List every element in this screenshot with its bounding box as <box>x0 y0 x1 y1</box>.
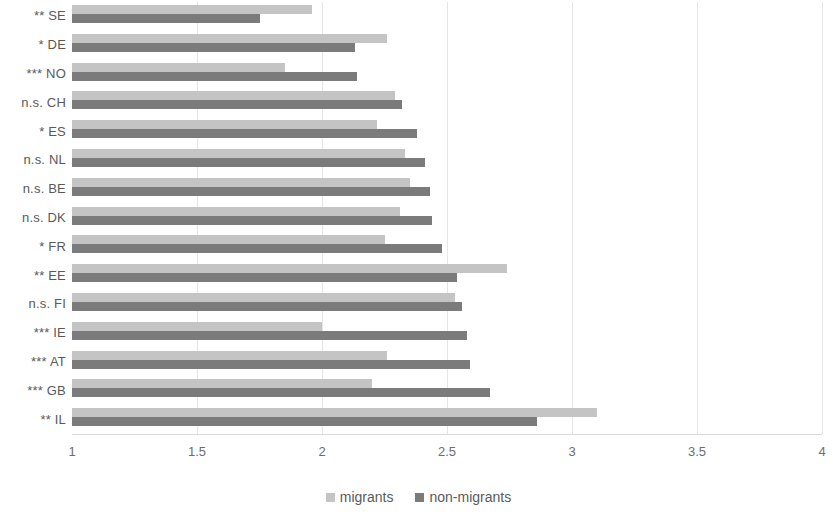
bar-non-migrants <box>72 43 355 52</box>
category-label: *** NO <box>0 66 66 81</box>
bar-migrants <box>72 351 387 360</box>
bar-migrants <box>72 120 377 129</box>
bar-group <box>72 117 822 144</box>
bar-group <box>72 319 822 346</box>
bar-migrants <box>72 264 507 273</box>
bar-migrants <box>72 235 385 244</box>
plot-area <box>72 2 822 434</box>
x-tick-label: 1.5 <box>188 444 206 459</box>
bar-group <box>72 175 822 202</box>
non-migrants-swatch <box>415 493 424 502</box>
category-label: n.s. NL <box>0 152 66 167</box>
category-label: * DE <box>0 37 66 52</box>
bar-non-migrants <box>72 302 462 311</box>
bar-non-migrants <box>72 129 417 138</box>
bar-non-migrants <box>72 417 537 426</box>
x-axis-line <box>72 434 822 435</box>
bar-migrants <box>72 379 372 388</box>
bar-migrants <box>72 207 400 216</box>
category-label: * ES <box>0 124 66 139</box>
category-label: ** IL <box>0 412 66 427</box>
bar-non-migrants <box>72 187 430 196</box>
x-tick-label: 2.5 <box>438 444 456 459</box>
migrants-swatch <box>326 493 335 502</box>
x-tick-label: 3 <box>568 444 575 459</box>
bar-migrants <box>72 149 405 158</box>
legend-label: migrants <box>340 489 394 505</box>
category-label: n.s. BE <box>0 181 66 196</box>
category-label: *** IE <box>0 325 66 340</box>
bar-group <box>72 261 822 288</box>
category-label: n.s. CH <box>0 95 66 110</box>
bar-migrants <box>72 5 312 14</box>
bar-group <box>72 204 822 231</box>
bar-non-migrants <box>72 100 402 109</box>
bar-non-migrants <box>72 360 470 369</box>
bar-non-migrants <box>72 72 357 81</box>
bar-migrants <box>72 293 455 302</box>
x-tick-label: 2 <box>318 444 325 459</box>
bar-migrants <box>72 63 285 72</box>
bar-group <box>72 31 822 58</box>
x-tick-label: 1 <box>68 444 75 459</box>
x-tick-label: 4 <box>818 444 825 459</box>
bar-group <box>72 232 822 259</box>
bar-migrants <box>72 408 597 417</box>
bar-non-migrants <box>72 244 442 253</box>
bar-non-migrants <box>72 14 260 23</box>
horizontal-bar-chart: 11.522.533.54 migrantsnon-migrants ** SE… <box>0 0 837 516</box>
bar-non-migrants <box>72 331 467 340</box>
bar-migrants <box>72 34 387 43</box>
category-label: * FR <box>0 239 66 254</box>
bar-non-migrants <box>72 158 425 167</box>
bar-group <box>72 376 822 403</box>
bar-group <box>72 405 822 432</box>
bar-group <box>72 348 822 375</box>
gridline-4 <box>822 2 823 434</box>
bar-group <box>72 2 822 29</box>
category-label: *** GB <box>0 383 66 398</box>
bar-non-migrants <box>72 273 457 282</box>
bar-group <box>72 88 822 115</box>
category-label: n.s. DK <box>0 210 66 225</box>
category-label: n.s. FI <box>0 296 66 311</box>
bar-group <box>72 290 822 317</box>
chart-legend: migrantsnon-migrants <box>0 489 837 505</box>
category-label: ** SE <box>0 8 66 23</box>
legend-item[interactable]: migrants <box>326 489 394 505</box>
x-tick-label: 3.5 <box>688 444 706 459</box>
bar-migrants <box>72 178 410 187</box>
legend-label: non-migrants <box>429 489 511 505</box>
category-label: ** EE <box>0 268 66 283</box>
bar-group <box>72 60 822 87</box>
bar-non-migrants <box>72 216 432 225</box>
bar-migrants <box>72 322 322 331</box>
bar-non-migrants <box>72 388 490 397</box>
legend-item[interactable]: non-migrants <box>415 489 511 505</box>
bar-migrants <box>72 91 395 100</box>
category-label: *** AT <box>0 354 66 369</box>
bar-group <box>72 146 822 173</box>
